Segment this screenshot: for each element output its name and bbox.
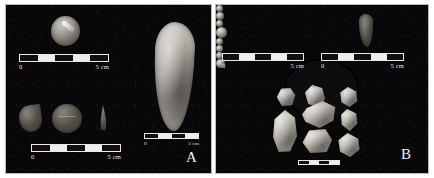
scalebar-a-right: 0 5 cm <box>144 133 199 139</box>
bead-5 <box>216 38 223 45</box>
sherd-6 <box>302 129 332 153</box>
scalebar-b-left-zero-label: 0 <box>222 63 225 70</box>
scalebar-a-right-max-label: 5 cm <box>188 141 199 146</box>
bead-3 <box>216 20 223 27</box>
artifact-small-stone-point <box>359 14 373 47</box>
scalebar-b-left-max-label: 5 cm <box>290 63 304 70</box>
panel-b-letter: B <box>401 147 411 162</box>
sherd-8 <box>338 133 360 157</box>
scalebar-a-top-zero-label: 0 <box>19 64 22 71</box>
artifact-large-leaf-shaped-biface <box>152 21 196 131</box>
scalebar-a-top-bar <box>19 54 109 62</box>
artifact-half-disc-fragment <box>17 104 44 134</box>
scalebar-b-right: 0 5 cm <box>321 53 404 61</box>
scalebar-a-top-max-label: 5 cm <box>95 64 109 71</box>
scalebar-a-bottom-max-label: 5 cm <box>107 154 121 161</box>
panel-a-letter: A <box>186 150 197 165</box>
scalebar-a-bottom-zero-label: 0 <box>31 154 34 161</box>
artifact-small-triangular-pendant <box>98 105 109 130</box>
sherd-4 <box>272 110 298 152</box>
artifact-figure-plate: 0 5 cm 0 5 cm 0 5 cm A <box>0 0 434 178</box>
scalebar-a-top: 0 5 cm <box>19 54 109 62</box>
scalebar-b-left: 0 5 cm <box>222 53 304 61</box>
artifact-shell-disc-ornament <box>51 16 80 46</box>
scalebar-a-right-zero-label: 0 <box>144 141 147 146</box>
bead-2 <box>216 12 224 20</box>
artifact-round-disc <box>52 104 82 133</box>
sherd-7 <box>340 109 358 131</box>
bead-4 <box>216 27 227 38</box>
scalebar-a-right-bar <box>144 133 199 139</box>
panel-a: 0 5 cm 0 5 cm 0 5 cm A <box>5 4 212 174</box>
scalebar-b-right-bar <box>321 53 404 61</box>
panel-b: 0 5 cm 0 5 cm B <box>215 4 429 174</box>
scalebar-a-bottom-bar <box>31 144 121 152</box>
scalebar-b-bottom-bar <box>298 160 340 165</box>
scalebar-b-left-bar <box>222 53 304 61</box>
shell-highlight-streak <box>61 20 76 33</box>
scalebar-a-bottom: 0 5 cm <box>31 144 121 152</box>
disc-surface-mark <box>58 116 76 117</box>
bead-6 <box>216 45 223 52</box>
scalebar-b-right-zero-label: 0 <box>321 63 324 70</box>
bead-1 <box>216 5 223 12</box>
scalebar-b-right-max-label: 5 cm <box>390 63 404 70</box>
scalebar-b-bottom <box>298 160 340 165</box>
